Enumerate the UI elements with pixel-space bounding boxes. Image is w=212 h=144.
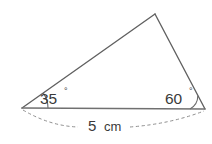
dimension-label-unit: cm	[104, 119, 121, 134]
angle-arc-right-60deg	[190, 96, 198, 109]
degree-symbol-left-icon: °	[64, 86, 68, 96]
triangle-base-edge	[22, 108, 205, 109]
geometry-diagram-canvas: 35 ° 60 ° 5 cm	[0, 0, 212, 144]
dimension-label-value: 5	[88, 117, 96, 134]
dimension-arc-left-segment	[23, 110, 78, 127]
angle-label-left-value: 35	[40, 90, 57, 107]
dimension-arc-right-segment	[130, 111, 204, 127]
angle-label-right-value: 60	[165, 90, 183, 107]
degree-symbol-right-icon: °	[189, 86, 193, 96]
triangle-figure: 35 ° 60 ° 5 cm	[0, 0, 212, 144]
